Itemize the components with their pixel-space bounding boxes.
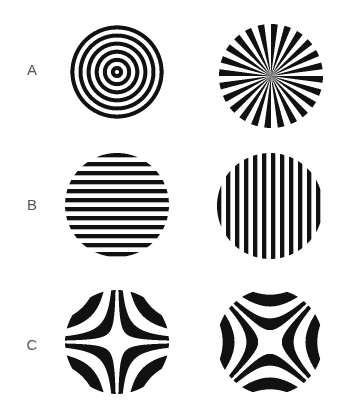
row-label-c: C (22, 337, 42, 353)
row-label-a: A (22, 62, 42, 78)
pattern-canvas (0, 0, 340, 406)
row-label-b: B (22, 197, 42, 213)
